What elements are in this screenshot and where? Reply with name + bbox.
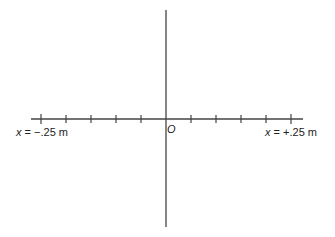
left-endpoint-label: x = −.25 m xyxy=(16,126,68,138)
right-endpoint-label: x = +.25 m xyxy=(265,126,317,138)
origin-label: O xyxy=(167,123,176,135)
axes-diagram xyxy=(0,0,335,237)
right-label-value: = +.25 m xyxy=(271,126,317,138)
left-label-value: = −.25 m xyxy=(22,126,68,138)
